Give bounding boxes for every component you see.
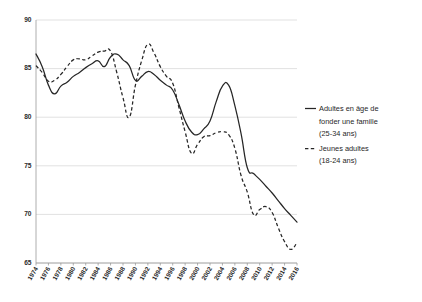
series-line-adultes-25-34: [36, 54, 297, 222]
chart-legend: Adultes en âge de fonder une famille (25…: [305, 103, 421, 170]
x-tick-label-1988: 1988: [113, 265, 126, 281]
x-tick-label-1984: 1984: [88, 265, 101, 281]
y-tick-label-65: 65: [24, 259, 32, 266]
x-tick-label-1980: 1980: [63, 265, 76, 281]
legend-label-adultes-line1: Adultes en âge de: [319, 103, 421, 116]
axes-group: [36, 20, 297, 266]
gridlines-group: [36, 20, 297, 263]
x-tick-label-1986: 1986: [100, 265, 113, 281]
chart-figure: 908580757065 197419761978198019821984198…: [0, 0, 422, 302]
x-tick-label-2008: 2008: [237, 265, 250, 281]
y-tick-label-90: 90: [24, 16, 32, 23]
x-tick-label-2016: 2016: [287, 265, 300, 281]
legend-label-jeunes-line2: (18-24 ans): [319, 155, 421, 168]
legend-label-jeunes-line1: Jeunes adultes: [319, 143, 421, 156]
x-tick-label-1992: 1992: [138, 265, 151, 281]
y-tick-label-80: 80: [24, 113, 32, 120]
x-tick-label-1974: 1974: [26, 265, 39, 281]
x-tick-label-2010: 2010: [250, 265, 263, 281]
legend-dashed-line-icon: [305, 143, 316, 153]
x-tick-label-2000: 2000: [187, 265, 200, 281]
legend-solid-line-icon: [305, 103, 316, 113]
x-tick-label-2014: 2014: [274, 265, 287, 281]
x-tick-label-1982: 1982: [76, 265, 89, 281]
data-series-group: [36, 44, 297, 249]
x-tick-label-1990: 1990: [125, 265, 138, 281]
x-tick-label-2012: 2012: [262, 265, 275, 281]
x-tick-label-1976: 1976: [38, 265, 51, 281]
legend-item-adultes: Adultes en âge de fonder une famille (25…: [305, 103, 421, 141]
x-tick-label-1996: 1996: [163, 265, 176, 281]
y-tick-label-75: 75: [24, 162, 32, 169]
y-tick-label-70: 70: [24, 210, 32, 217]
legend-label-adultes-line2: fonder une famille: [319, 116, 421, 129]
x-tick-label-2006: 2006: [225, 265, 238, 281]
x-tick-label-1978: 1978: [51, 265, 64, 281]
x-tick-label-2004: 2004: [212, 265, 225, 281]
y-axis-tick-labels: 908580757065: [24, 16, 32, 266]
y-tick-label-85: 85: [24, 64, 32, 71]
legend-item-jeunes: Jeunes adultes (18-24 ans): [305, 143, 421, 168]
x-tick-label-1994: 1994: [150, 265, 163, 281]
x-tick-label-2002: 2002: [200, 265, 213, 281]
x-axis-tick-labels: 1974197619781980198219841986198819901992…: [26, 265, 300, 281]
x-tick-label-1998: 1998: [175, 265, 188, 281]
legend-label-adultes-line3: (25-34 ans): [319, 128, 421, 141]
